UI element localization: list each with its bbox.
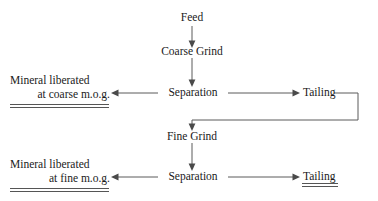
- node-tailing-coarse: Tailing: [303, 86, 335, 99]
- node-fine-grind: Fine Grind: [167, 130, 217, 143]
- node-separation-fine: Separation: [168, 170, 217, 183]
- node-separation-coarse: Separation: [168, 86, 217, 99]
- flowchart-diagram: Feed Coarse Grind Separation Fine Grind …: [0, 0, 378, 201]
- product-coarse-double-underline: [10, 104, 109, 108]
- arrowhead-separation-fine-to-product: [111, 174, 119, 181]
- product-fine-double-underline: [10, 188, 109, 192]
- product-coarse-line-2: at coarse m.o.g.: [10, 87, 110, 101]
- product-fine-line-2: at fine m.o.g.: [10, 171, 110, 185]
- tailing-fine-double-underline: [302, 183, 338, 187]
- node-tailing-fine: Tailing: [303, 170, 335, 183]
- product-fine-line-1: Mineral liberated: [10, 157, 110, 171]
- arrowhead-separation-coarse-to-tailing: [293, 90, 301, 97]
- node-coarse-grind: Coarse Grind: [161, 45, 223, 58]
- arrowhead-separation-fine-to-tailing: [293, 174, 301, 181]
- product-coarse-mineral: Mineral liberated at coarse m.o.g.: [10, 73, 110, 101]
- arrowhead-separation-coarse-to-product: [111, 90, 119, 97]
- product-coarse-line-1: Mineral liberated: [10, 73, 110, 87]
- node-feed: Feed: [181, 11, 203, 24]
- product-fine-mineral: Mineral liberated at fine m.o.g.: [10, 157, 110, 185]
